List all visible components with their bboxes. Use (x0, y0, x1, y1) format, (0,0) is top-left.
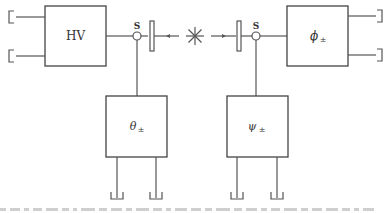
phi-detector-bottom (348, 49, 382, 61)
detector-bracket-icon (377, 49, 382, 61)
phi-detector-top (348, 10, 382, 22)
theta-analyzer-box (106, 96, 167, 157)
left-splitter-label: S (134, 21, 141, 31)
psi-box-label-sub: ± (259, 125, 266, 134)
hv-detector-bottom (9, 50, 45, 62)
figure-caption-clipped (0, 208, 391, 213)
right-splitter-label: S (253, 21, 260, 31)
theta-detector-left (111, 157, 123, 199)
psi-detector-right (271, 157, 283, 199)
hv-detector-top (9, 11, 45, 23)
left-beam-splitter-icon (133, 32, 141, 40)
entangled-source-icon (186, 27, 204, 45)
psi-box-label-main: ψ (248, 120, 257, 133)
psi-detector-left (231, 157, 243, 199)
right-arrow-icon (222, 34, 226, 38)
diagram-canvas: HV S θ ± (0, 0, 391, 213)
psi-analyzer-box (227, 96, 288, 157)
left-polarizer-plate (150, 21, 154, 51)
detector-bracket-icon (377, 10, 382, 22)
detector-bracket-icon (9, 50, 14, 62)
right-polarizer-plate (237, 21, 241, 51)
right-beam-splitter-icon (252, 32, 260, 40)
theta-detector-right (150, 157, 162, 199)
hv-box-label: HV (66, 29, 85, 43)
phi-box-label-main: ϕ (310, 29, 318, 43)
theta-box-label-main: θ (130, 120, 137, 133)
apparatus-diagram: HV S θ ± (0, 0, 391, 213)
left-arrow-icon (166, 34, 170, 38)
detector-bracket-icon (9, 11, 14, 23)
phi-box-label-sub: ± (320, 35, 327, 44)
theta-box-label-sub: ± (138, 125, 145, 134)
